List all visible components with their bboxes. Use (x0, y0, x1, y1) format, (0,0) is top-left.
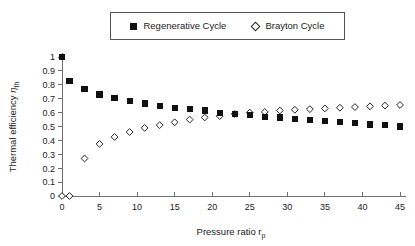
regenerative-point (292, 116, 298, 122)
brayton-point (291, 106, 298, 113)
regenerative-point (142, 100, 148, 106)
x-tick-label: 20 (207, 202, 217, 212)
brayton-point (276, 107, 283, 114)
regenerative-point (66, 78, 72, 84)
brayton-point (201, 114, 208, 121)
x-tick-label: 45 (395, 202, 405, 212)
y-axis-title: Thermal efficiency ηth (7, 82, 20, 173)
x-axis-title: Pressure ratio rp (197, 226, 266, 240)
regenerative-point (111, 95, 117, 101)
y-tick-label: 0.8 (42, 80, 55, 90)
regenerative-point (232, 111, 238, 117)
regenerative-point (322, 118, 328, 124)
brayton-point (126, 129, 133, 136)
regenerative-point (277, 114, 283, 120)
y-axis: 00.10.20.30.40.50.60.70.80.91 (42, 52, 62, 201)
regenerative-point (247, 112, 253, 118)
regenerative-point (307, 117, 313, 123)
brayton-point (66, 193, 73, 200)
series-brayton-cycle (59, 102, 404, 200)
brayton-point (156, 122, 163, 129)
brayton-point (397, 102, 404, 109)
y-tick-label: 0.1 (42, 177, 55, 187)
brayton-point (96, 140, 103, 147)
chart-figure: Regenerative Cycle Brayton Cycle 00.10.2… (0, 0, 415, 246)
brayton-point (141, 124, 148, 131)
regenerative-point (187, 106, 193, 112)
x-tick-label: 15 (170, 202, 180, 212)
brayton-point (186, 116, 193, 123)
plot-area: 00.10.20.30.40.50.60.70.80.91 0510152025… (0, 0, 415, 246)
x-tick-label: 35 (320, 202, 330, 212)
y-tick-label: 0.9 (42, 66, 55, 76)
regenerative-point (96, 91, 102, 97)
regenerative-point (352, 120, 358, 126)
brayton-point (321, 105, 328, 112)
y-tick-label: 0.3 (42, 150, 55, 160)
brayton-point (367, 103, 374, 110)
regenerative-point (262, 114, 268, 120)
x-tick-label: 25 (245, 202, 255, 212)
regenerative-point (127, 98, 133, 104)
y-tick-label: 0.4 (42, 136, 55, 146)
y-tick-label: 1 (50, 52, 55, 62)
svg-text:Thermal efficiency ηth: Thermal efficiency ηth (7, 82, 20, 173)
regenerative-point (382, 122, 388, 128)
regenerative-point (157, 103, 163, 109)
brayton-point (111, 134, 118, 141)
brayton-point (337, 104, 344, 111)
brayton-point (382, 102, 389, 109)
y-tick-label: 0.6 (42, 108, 55, 118)
brayton-point (171, 119, 178, 126)
y-tick-label: 0.7 (42, 94, 55, 104)
regenerative-point (172, 105, 178, 111)
series-regenerative-cycle (59, 54, 403, 130)
x-tick-label: 0 (59, 202, 64, 212)
regenerative-point (397, 123, 403, 129)
x-tick-label: 40 (357, 202, 367, 212)
x-tick-label: 10 (132, 202, 142, 212)
y-tick-label: 0.2 (42, 164, 55, 174)
brayton-point (352, 104, 359, 111)
x-tick-label: 5 (97, 202, 102, 212)
x-axis: 051015202530354045 (59, 192, 406, 212)
y-tick-label: 0.5 (42, 122, 55, 132)
regenerative-point (337, 119, 343, 125)
brayton-point (306, 106, 313, 113)
brayton-point (81, 155, 88, 162)
regenerative-point (81, 86, 87, 92)
regenerative-point (367, 121, 373, 127)
regenerative-point (217, 110, 223, 116)
x-tick-label: 30 (282, 202, 292, 212)
brayton-point (59, 193, 66, 200)
regenerative-point (202, 107, 208, 113)
regenerative-point (59, 54, 65, 60)
y-tick-label: 0 (50, 191, 55, 201)
